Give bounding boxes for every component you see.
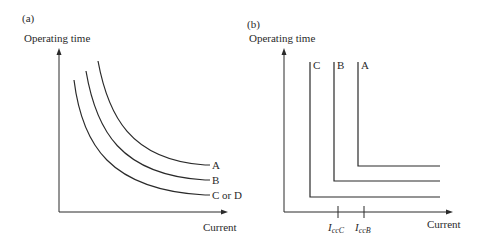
tick-iccb-label: IccB [354, 221, 371, 235]
panel-a-xlabel: Current [203, 221, 237, 233]
panel-a: (a) Operating time Current A B C or D [22, 12, 242, 233]
panel-b-label: (b) [247, 18, 260, 31]
curve-b-label: B [337, 59, 344, 71]
tick-iccc-label: IccC [327, 221, 345, 235]
curve-a-label: A [212, 159, 220, 171]
panel-b-xlabel: Current [427, 218, 461, 230]
curve-b [334, 62, 440, 181]
diagram-canvas: (a) Operating time Current A B C or D (b… [0, 0, 484, 246]
curve-a [358, 62, 440, 166]
panel-a-ylabel: Operating time [24, 32, 90, 44]
curve-b-label: B [212, 174, 219, 186]
curve-c-or-d-label: C or D [212, 189, 242, 201]
panel-b-ylabel: Operating time [249, 32, 315, 44]
curve-a [98, 61, 205, 165]
curve-a-label: A [361, 59, 369, 71]
panel-a-label: (a) [22, 12, 35, 25]
curve-c-label: C [313, 59, 320, 71]
panel-b: (b) Operating time Current C B A IccC Ic… [247, 18, 461, 235]
curve-c [310, 62, 440, 197]
